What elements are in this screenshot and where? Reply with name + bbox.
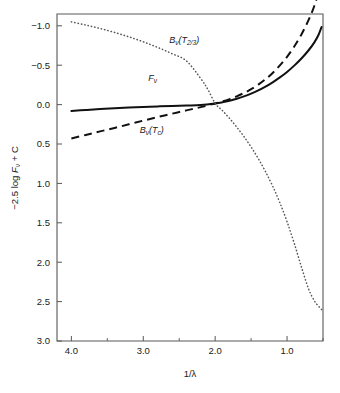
data-curves bbox=[71, 0, 321, 309]
y-tick-label: 2.0 bbox=[37, 257, 50, 268]
x-axis-title: 1/λ bbox=[184, 368, 197, 379]
y-tick-label: 3.0 bbox=[37, 335, 50, 346]
y-tick-label: −0.5 bbox=[31, 60, 50, 71]
y-axis-tick-labels: −1.0−0.50.00.51.01.52.02.53.0 bbox=[31, 20, 50, 346]
x-tick-label: 3.0 bbox=[137, 345, 150, 356]
figure-container: 4.03.02.01.0 −1.0−0.50.00.51.01.52.02.53… bbox=[0, 0, 340, 393]
curve-label: Fν bbox=[148, 73, 158, 84]
chart-canvas: 4.03.02.01.0 −1.0−0.50.00.51.01.52.02.53… bbox=[0, 0, 340, 393]
y-axis-ticks bbox=[57, 26, 62, 341]
curve-label: Bν(T2/3) bbox=[169, 35, 199, 46]
y-axis-title-text: −2.5 log Fν + C bbox=[9, 146, 21, 210]
curve-annotations: FνBν(Tc)Bν(T2/3) bbox=[140, 35, 199, 136]
curve-dotted bbox=[71, 22, 321, 310]
x-tick-label: 2.0 bbox=[209, 345, 222, 356]
x-tick-label: 1.0 bbox=[280, 345, 293, 356]
x-axis-tick-labels: 4.03.02.01.0 bbox=[65, 345, 294, 356]
x-axis-ticks bbox=[71, 336, 323, 341]
y-tick-label: 2.5 bbox=[37, 296, 50, 307]
y-axis-title: −2.5 log Fν + C bbox=[9, 146, 21, 210]
x-axis-title-text: 1/λ bbox=[184, 368, 197, 379]
y-tick-label: 1.0 bbox=[37, 178, 50, 189]
y-tick-label: 0.0 bbox=[37, 99, 50, 110]
y-tick-label: 1.5 bbox=[37, 217, 50, 228]
y-tick-label: −1.0 bbox=[31, 20, 50, 31]
curve-dashed bbox=[71, 0, 321, 138]
y-tick-label: 0.5 bbox=[37, 138, 50, 149]
curve-label: Bν(Tc) bbox=[140, 125, 164, 136]
x-tick-label: 4.0 bbox=[65, 345, 78, 356]
